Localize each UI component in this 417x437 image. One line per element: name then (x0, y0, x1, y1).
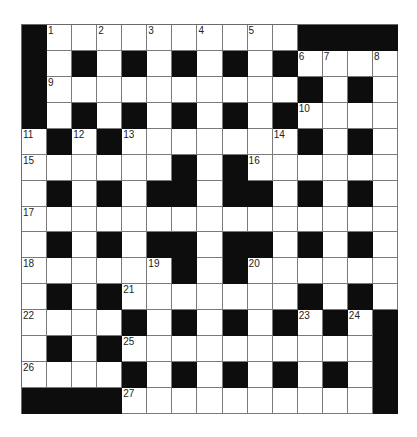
answer-cell[interactable]: 7 (323, 51, 348, 77)
answer-cell[interactable]: 8 (373, 51, 398, 77)
answer-cell[interactable] (97, 362, 122, 388)
answer-cell[interactable] (348, 362, 373, 388)
answer-cell[interactable] (197, 258, 222, 284)
answer-cell[interactable] (172, 388, 197, 414)
answer-cell[interactable] (72, 77, 97, 103)
answer-cell[interactable] (373, 103, 398, 129)
answer-cell[interactable] (298, 155, 323, 181)
answer-cell[interactable]: 20 (248, 258, 273, 284)
answer-cell[interactable] (197, 129, 222, 155)
answer-cell[interactable] (223, 388, 248, 414)
answer-cell[interactable] (197, 155, 222, 181)
answer-cell[interactable] (122, 207, 147, 233)
answer-cell[interactable] (97, 207, 122, 233)
answer-cell[interactable] (97, 310, 122, 336)
answer-cell[interactable] (72, 362, 97, 388)
answer-cell[interactable] (147, 103, 172, 129)
answer-cell[interactable] (122, 232, 147, 258)
answer-cell[interactable] (72, 284, 97, 310)
answer-cell[interactable] (147, 51, 172, 77)
answer-cell[interactable]: 25 (122, 336, 147, 362)
answer-cell[interactable] (248, 51, 273, 77)
answer-cell[interactable] (72, 258, 97, 284)
answer-cell[interactable] (197, 103, 222, 129)
answer-cell[interactable] (323, 77, 348, 103)
answer-cell[interactable] (323, 103, 348, 129)
answer-cell[interactable] (348, 388, 373, 414)
answer-cell[interactable] (147, 129, 172, 155)
answer-cell[interactable] (122, 25, 147, 51)
answer-cell[interactable] (223, 25, 248, 51)
answer-cell[interactable] (373, 155, 398, 181)
answer-cell[interactable] (348, 258, 373, 284)
answer-cell[interactable]: 22 (22, 310, 47, 336)
answer-cell[interactable]: 1 (47, 25, 72, 51)
answer-cell[interactable] (197, 310, 222, 336)
answer-cell[interactable] (273, 258, 298, 284)
answer-cell[interactable] (197, 388, 222, 414)
answer-cell[interactable] (323, 155, 348, 181)
answer-cell[interactable] (47, 207, 72, 233)
answer-cell[interactable] (122, 155, 147, 181)
answer-cell[interactable] (298, 207, 323, 233)
answer-cell[interactable] (273, 155, 298, 181)
answer-cell[interactable] (22, 181, 47, 207)
answer-cell[interactable] (97, 77, 122, 103)
answer-cell[interactable] (22, 232, 47, 258)
answer-cell[interactable]: 15 (22, 155, 47, 181)
answer-cell[interactable] (298, 362, 323, 388)
answer-cell[interactable] (172, 207, 197, 233)
answer-cell[interactable] (273, 284, 298, 310)
answer-cell[interactable] (323, 181, 348, 207)
answer-cell[interactable] (172, 25, 197, 51)
answer-cell[interactable] (147, 310, 172, 336)
answer-cell[interactable]: 27 (122, 388, 147, 414)
answer-cell[interactable] (97, 155, 122, 181)
answer-cell[interactable] (373, 77, 398, 103)
answer-cell[interactable] (97, 51, 122, 77)
answer-cell[interactable]: 24 (348, 310, 373, 336)
answer-cell[interactable] (348, 103, 373, 129)
answer-cell[interactable] (197, 232, 222, 258)
answer-cell[interactable] (22, 336, 47, 362)
answer-cell[interactable] (147, 388, 172, 414)
answer-cell[interactable]: 10 (298, 103, 323, 129)
answer-cell[interactable] (72, 310, 97, 336)
answer-cell[interactable] (273, 388, 298, 414)
answer-cell[interactable] (147, 284, 172, 310)
answer-cell[interactable] (248, 310, 273, 336)
answer-cell[interactable] (248, 362, 273, 388)
answer-cell[interactable] (323, 336, 348, 362)
answer-cell[interactable] (47, 310, 72, 336)
answer-cell[interactable] (273, 25, 298, 51)
answer-cell[interactable] (72, 25, 97, 51)
answer-cell[interactable] (273, 77, 298, 103)
answer-cell[interactable] (147, 362, 172, 388)
answer-cell[interactable] (172, 284, 197, 310)
answer-cell[interactable]: 23 (298, 310, 323, 336)
answer-cell[interactable] (172, 336, 197, 362)
answer-cell[interactable] (373, 258, 398, 284)
answer-cell[interactable] (248, 77, 273, 103)
answer-cell[interactable] (248, 129, 273, 155)
answer-cell[interactable] (273, 336, 298, 362)
answer-cell[interactable] (172, 77, 197, 103)
answer-cell[interactable] (273, 181, 298, 207)
answer-cell[interactable] (273, 207, 298, 233)
answer-cell[interactable] (348, 155, 373, 181)
answer-cell[interactable] (373, 232, 398, 258)
answer-cell[interactable] (373, 207, 398, 233)
answer-cell[interactable] (47, 103, 72, 129)
answer-cell[interactable] (223, 129, 248, 155)
answer-cell[interactable]: 6 (298, 51, 323, 77)
answer-cell[interactable] (72, 336, 97, 362)
answer-cell[interactable] (47, 362, 72, 388)
answer-cell[interactable] (248, 103, 273, 129)
answer-cell[interactable]: 9 (47, 77, 72, 103)
answer-cell[interactable] (122, 77, 147, 103)
answer-cell[interactable] (273, 232, 298, 258)
answer-cell[interactable]: 11 (22, 129, 47, 155)
answer-cell[interactable] (248, 284, 273, 310)
answer-cell[interactable] (122, 181, 147, 207)
answer-cell[interactable] (72, 181, 97, 207)
